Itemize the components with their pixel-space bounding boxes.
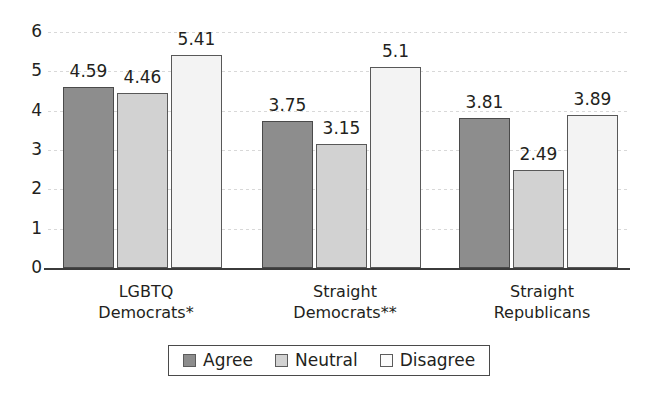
bar-value-label: 3.75 [256, 97, 319, 114]
bar [370, 67, 421, 268]
bar-value-label: 5.41 [165, 31, 228, 48]
bar-value-label: 3.81 [453, 94, 516, 111]
legend-item-label: Agree [203, 351, 253, 369]
legend-swatch-icon [380, 354, 393, 367]
bar [171, 55, 222, 268]
y-axis-tick-label: 4 [14, 102, 42, 119]
x-axis-category-label: LGBTQDemocrats* [46, 281, 246, 323]
x-axis-line [44, 268, 630, 270]
bar [513, 170, 564, 268]
chart-legend: AgreeNeutralDisagree [168, 345, 490, 376]
bar [63, 87, 114, 268]
x-axis-category-label-line: Straight [245, 281, 445, 302]
bar [316, 144, 367, 268]
legend-item-label: Neutral [295, 351, 358, 369]
x-axis-category-label-line: Republicans [442, 302, 642, 323]
bar-value-label: 2.49 [507, 146, 570, 163]
bar-value-label: 4.46 [111, 69, 174, 86]
legend-item-agree[interactable]: Agree [183, 351, 253, 369]
x-axis-category-label-line: Democrats* [46, 302, 246, 323]
x-axis-category-label-line: Straight [442, 281, 642, 302]
x-axis-category-label-line: LGBTQ [46, 281, 246, 302]
legend-item-label: Disagree [400, 351, 475, 369]
bar [262, 121, 313, 269]
bar-chart: 0123456 4.593.753.814.463.152.495.415.13… [0, 0, 662, 393]
legend-item-neutral[interactable]: Neutral [275, 351, 358, 369]
bar [117, 93, 168, 268]
x-axis-category-label-line: Democrats** [245, 302, 445, 323]
bar [459, 118, 510, 268]
legend-swatch-icon [275, 354, 288, 367]
legend-swatch-icon [183, 354, 196, 367]
x-axis-category-label: StraightDemocrats** [245, 281, 445, 323]
y-axis-tick-label: 6 [14, 23, 42, 40]
bar-value-label: 5.1 [364, 43, 427, 60]
bar-value-label: 3.15 [310, 120, 373, 137]
y-axis-tick-label: 0 [14, 259, 42, 276]
y-axis-tick-label: 5 [14, 62, 42, 79]
y-axis-tick-label: 1 [14, 220, 42, 237]
y-axis-tick-label: 3 [14, 141, 42, 158]
gridline [48, 32, 630, 33]
legend-item-disagree[interactable]: Disagree [380, 351, 475, 369]
bar-value-label: 3.89 [561, 91, 624, 108]
bar [567, 115, 618, 268]
y-axis-tick-label: 2 [14, 180, 42, 197]
x-axis-category-label: StraightRepublicans [442, 281, 642, 323]
